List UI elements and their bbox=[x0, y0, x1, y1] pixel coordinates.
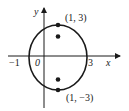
tick-label-3: 3 bbox=[88, 57, 93, 68]
y-axis-label: y bbox=[33, 6, 39, 17]
vertex-top-point bbox=[56, 23, 61, 28]
focus-bottom-point bbox=[56, 77, 61, 82]
vertex-bottom-point bbox=[56, 88, 61, 93]
tick-label-0: 0 bbox=[35, 57, 40, 68]
vertex-bottom-label: (1, −3) bbox=[66, 92, 93, 104]
vertex-top-label: (1, 3) bbox=[65, 12, 87, 24]
ellipse-diagram: y x −1 0 3 (1, 3) (1, −3) bbox=[0, 0, 129, 111]
x-axis-label: x bbox=[105, 57, 111, 68]
tick-label-neg1: −1 bbox=[9, 57, 20, 68]
focus-top-point bbox=[56, 34, 61, 39]
